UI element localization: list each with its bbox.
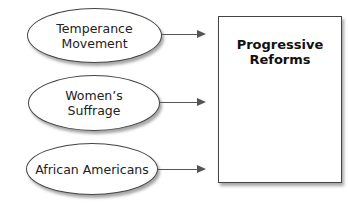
- ellipse-label: Women’s Suffrage: [65, 88, 123, 118]
- ellipse-label-line: Suffrage: [65, 103, 123, 118]
- ellipse-african-americans: African Americans: [26, 143, 158, 195]
- arrow-temperance-to-reforms: [162, 34, 204, 35]
- ellipse-label-line: Temperance: [56, 21, 132, 36]
- ellipse-temperance-movement: Temperance Movement: [27, 8, 162, 63]
- progressive-reforms-box: Progressive Reforms: [218, 16, 342, 183]
- box-title-line: Progressive: [219, 37, 341, 52]
- box-title-line: Reforms: [219, 52, 341, 67]
- ellipse-label-line: African Americans: [35, 162, 149, 177]
- arrow-head-icon: [197, 30, 206, 38]
- arrow-head-icon: [197, 98, 206, 106]
- ellipse-label: Temperance Movement: [56, 21, 132, 51]
- ellipse-label-line: Movement: [56, 36, 132, 51]
- ellipse-label-line: Women’s: [65, 88, 123, 103]
- ellipse-label: African Americans: [35, 162, 149, 177]
- arrow-suffrage-to-reforms: [160, 102, 204, 103]
- arrow-african-americans-to-reforms: [158, 169, 204, 170]
- ellipse-womens-suffrage: Women’s Suffrage: [28, 75, 160, 131]
- box-title: Progressive Reforms: [219, 37, 341, 67]
- arrow-head-icon: [197, 165, 206, 173]
